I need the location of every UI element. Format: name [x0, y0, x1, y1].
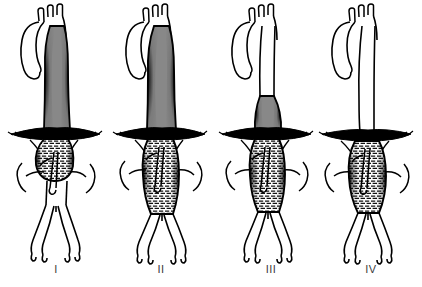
figure-label-1: I: [36, 263, 76, 275]
figure-label-4: IV: [351, 263, 391, 275]
figure-label-3: III: [251, 263, 291, 275]
distal-thoracic-aneurysm: [255, 96, 281, 131]
figure-label-2: II: [141, 263, 181, 275]
descending-thoracic-aorta-aneurysm: [147, 26, 176, 131]
aortic-aneurysm-classification-figure: I II III IV: [0, 0, 422, 287]
figure-label-row: I II III IV: [0, 263, 422, 285]
descending-thoracic-aorta-aneurysm: [44, 26, 70, 130]
abdominal-aorta-aneurysm: [143, 139, 180, 214]
illustration-canvas: [0, 0, 422, 287]
abdominal-aorta-aneurysm-sac: [36, 139, 74, 181]
